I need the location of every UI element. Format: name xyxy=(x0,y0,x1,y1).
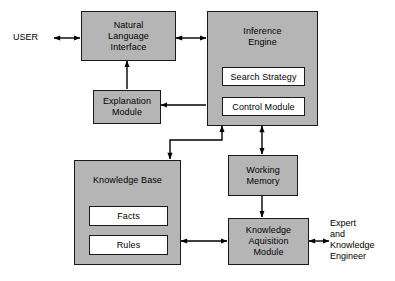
user-label: USER xyxy=(13,32,38,43)
expert-and-knowledge-engineer-label: Expert and Knowledge Engineer xyxy=(330,218,375,262)
node-search-strategy[interactable]: Search Strategy xyxy=(222,67,305,86)
node-knowledge-acquisition-module[interactable]: Knowledge Aquisition Module xyxy=(228,218,309,265)
node-inference-engine[interactable]: Inference Engine Search Strategy Control… xyxy=(207,11,318,126)
node-knowledge-base[interactable]: Knowledge Base Facts Rules xyxy=(74,160,181,265)
node-natural-language-interface[interactable]: Natural Language Interface xyxy=(81,11,176,61)
node-facts[interactable]: Facts xyxy=(89,206,168,226)
node-inference-engine-title: Inference Engine xyxy=(208,26,317,48)
diagram-canvas: USER Natural Language Interface Inferenc… xyxy=(0,0,395,281)
node-explanation-module[interactable]: Explanation Module xyxy=(93,90,161,124)
node-knowledge-base-title: Knowledge Base xyxy=(75,175,180,186)
node-rules[interactable]: Rules xyxy=(89,235,168,255)
wire-knowledge-base-to-inference-engine xyxy=(170,126,222,159)
node-control-module[interactable]: Control Module xyxy=(222,97,305,116)
node-working-memory[interactable]: Working Memory xyxy=(228,155,298,196)
